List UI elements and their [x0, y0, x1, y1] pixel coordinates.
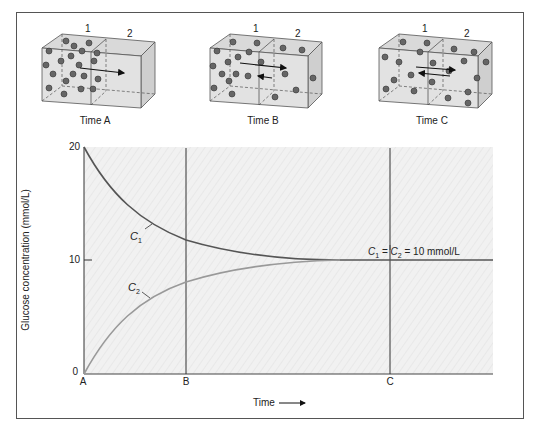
caption-time-a: Time A [55, 115, 135, 126]
y-axis-label: Glucose concentration (mmol/L) [20, 189, 31, 331]
equilibrium-annotation: C1 = C2 = 10 mmol/L [368, 246, 460, 259]
diagram-graphics [0, 0, 539, 433]
compartment-1-label-a: 1 [85, 23, 91, 34]
x-marker-c: C [384, 376, 396, 387]
y-tick-20: 20 [60, 141, 80, 152]
x-marker-a: A [77, 376, 89, 387]
c1-label: C1 [130, 230, 142, 244]
y-tick-10: 10 [60, 254, 80, 265]
concentration-chart [84, 147, 493, 403]
box-time-b [210, 34, 322, 108]
x-axis-label: Time [253, 397, 275, 408]
compartment-1-label-c: 1 [422, 23, 428, 34]
caption-time-b: Time B [223, 115, 303, 126]
compartment-2-label-a: 2 [127, 28, 133, 39]
compartment-2-label-c: 2 [464, 28, 470, 39]
x-marker-b: B [180, 376, 192, 387]
compartment-2-label-b: 2 [295, 28, 301, 39]
caption-time-c: Time C [392, 115, 472, 126]
box-time-c [379, 34, 492, 108]
c2-label: C2 [128, 281, 140, 295]
box-time-a [42, 34, 155, 108]
y-tick-0: 0 [58, 366, 78, 377]
compartment-1-label-b: 1 [253, 23, 259, 34]
